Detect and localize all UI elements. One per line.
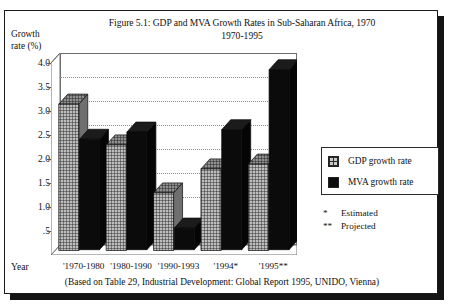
footnote-mark: * xyxy=(323,207,341,220)
x-axis-title: Year xyxy=(11,261,29,272)
mva-bar-2-front xyxy=(174,228,194,250)
legend-swatch-icon-gdp xyxy=(328,156,339,167)
frame-drop-shadow-bottom xyxy=(10,294,444,300)
mva-bar-4-front xyxy=(269,70,289,250)
gdp-bar-2-front xyxy=(154,193,174,251)
y-axis-tick-labels: 4.03.53.02.52.01.51.0.5 xyxy=(11,53,51,255)
legend: GDP growth rateMVA growth rate xyxy=(321,147,439,195)
footnote-text: Projected xyxy=(341,220,376,233)
x-tick-label-4: '1995** xyxy=(241,261,305,271)
legend-item-mva[interactable]: MVA growth rate xyxy=(328,172,413,192)
footnotes: *Estimated**Projected xyxy=(323,207,443,233)
gdp-bar-3-front xyxy=(201,169,221,251)
bars-svg xyxy=(51,53,297,255)
source-note: (Based on Table 29, Industrial Developme… xyxy=(5,277,439,287)
figure-frame: Figure 5.1: GDP and MVA Growth Rates in … xyxy=(4,10,438,294)
legend-label: MVA growth rate xyxy=(348,177,413,187)
y-axis-title: Growth rate (%) xyxy=(11,29,55,52)
mva-bar-3-front xyxy=(222,130,242,250)
bars-layer xyxy=(51,53,297,255)
legend-swatch-icon-mva xyxy=(328,177,339,188)
legend-item-gdp[interactable]: GDP growth rate xyxy=(328,151,412,171)
y-axis-title-line1: Growth xyxy=(11,29,55,41)
gdp-bar-0-front xyxy=(59,104,79,250)
footnote-mark: ** xyxy=(323,220,341,233)
footnote-text: Estimated xyxy=(341,207,378,220)
y-axis-title-line2: rate (%) xyxy=(11,41,55,53)
mva-bar-1-front xyxy=(127,132,147,250)
page-title: Figure 5.1: GDP and MVA Growth Rates in … xyxy=(57,17,427,29)
gdp-bar-1-front xyxy=(106,145,126,251)
chart-subtitle: 1970-1995 xyxy=(57,30,427,42)
legend-label: GDP growth rate xyxy=(348,156,412,166)
footnote-row-1: **Projected xyxy=(323,220,443,233)
mva-bar-4-side xyxy=(289,60,297,250)
plot-area xyxy=(51,53,297,255)
mva-bar-0-front xyxy=(79,139,99,249)
gdp-bar-4-front xyxy=(248,164,268,250)
footnote-row-0: *Estimated xyxy=(323,207,443,220)
